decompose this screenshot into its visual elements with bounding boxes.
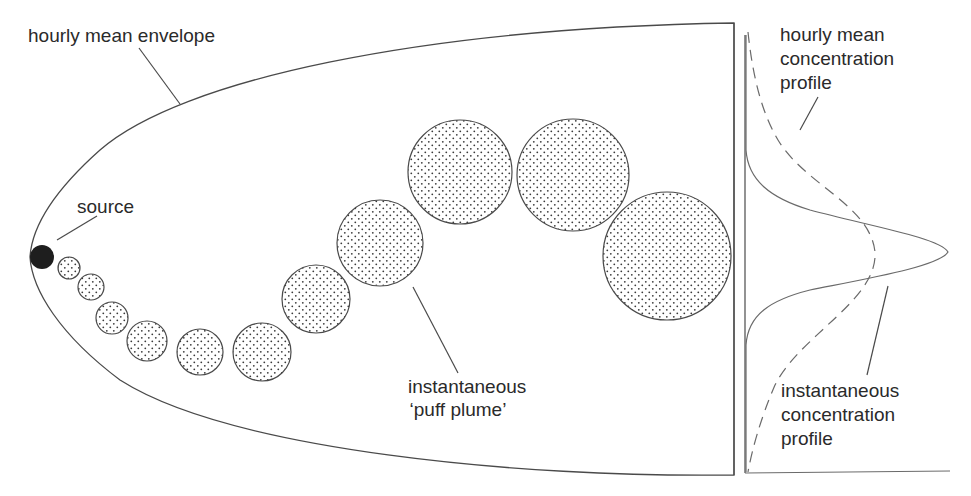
- puff-plume-label: instantaneous ‘puff plume’: [408, 375, 508, 421]
- puff-circle: [517, 119, 629, 231]
- mean-profile-leader-line: [800, 97, 818, 130]
- puff-circle: [96, 302, 128, 334]
- puff-circle: [337, 200, 423, 286]
- source-label: source: [77, 195, 134, 218]
- mean-label-line3: profile: [780, 71, 894, 95]
- hourly-mean-profile-label: hourly mean concentration profile: [780, 23, 894, 95]
- mean-label-line2: concentration: [780, 47, 894, 71]
- puff-circle: [282, 265, 350, 333]
- puff-leader-line: [413, 287, 458, 373]
- envelope-leader-line: [139, 48, 180, 104]
- envelope-label: hourly mean envelope: [28, 24, 215, 47]
- puff-circle: [78, 274, 104, 300]
- puff-label-line2: ‘puff plume’: [408, 398, 508, 421]
- puff-circle: [603, 192, 731, 320]
- puff-circle: [408, 120, 512, 224]
- inst-profile-leader-line: [867, 286, 888, 375]
- puff-label-line1: instantaneous: [408, 375, 508, 398]
- puff-circle: [177, 329, 223, 375]
- profile-axis-baseline: [745, 471, 950, 473]
- inst-label-line2: concentration: [781, 403, 899, 427]
- source-leader-line: [57, 216, 97, 240]
- inst-label-line1: instantaneous: [781, 379, 899, 403]
- source-icon: [30, 245, 54, 269]
- puff-group: [58, 119, 731, 381]
- mean-label-line1: hourly mean: [780, 23, 894, 47]
- puff-circle: [127, 321, 167, 361]
- inst-label-line3: profile: [781, 427, 899, 451]
- puff-circle: [58, 257, 80, 279]
- puff-circle: [233, 323, 291, 381]
- instantaneous-profile-label: instantaneous concentration profile: [781, 379, 899, 451]
